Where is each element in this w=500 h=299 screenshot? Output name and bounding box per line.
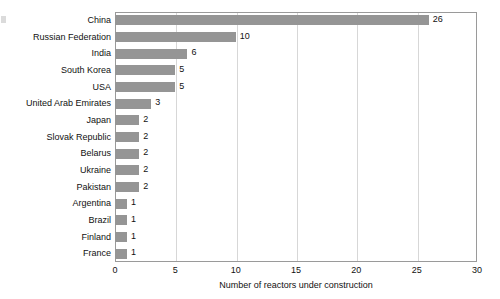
bar-value-label: 2 — [143, 111, 148, 128]
bar-row: 3 — [115, 95, 477, 112]
category-label: Japan — [0, 112, 111, 129]
bar[interactable] — [115, 149, 139, 159]
category-label: Belarus — [0, 145, 111, 162]
bar-row: 1 — [115, 195, 477, 212]
category-label: Pakistan — [0, 179, 111, 196]
x-tick-label: 20 — [351, 265, 361, 275]
bar-value-label: 2 — [143, 178, 148, 195]
bar-row: 1 — [115, 212, 477, 229]
bar[interactable] — [115, 15, 429, 25]
bar-value-label: 3 — [155, 94, 160, 111]
bar[interactable] — [115, 215, 127, 225]
bar-row: 5 — [115, 62, 477, 79]
x-tick-label: 30 — [472, 265, 482, 275]
category-label: Ukraine — [0, 162, 111, 179]
bar-row: 5 — [115, 79, 477, 96]
bar-row: 26 — [115, 12, 477, 29]
category-label: South Korea — [0, 62, 111, 79]
bar-row: 2 — [115, 129, 477, 146]
category-label: United Arab Emirates — [0, 95, 111, 112]
bar-row: 1 — [115, 245, 477, 262]
bar-row: 6 — [115, 45, 477, 62]
bar[interactable] — [115, 199, 127, 209]
category-label: Finland — [0, 229, 111, 246]
category-label: Argentina — [0, 195, 111, 212]
bar[interactable] — [115, 132, 139, 142]
bar[interactable] — [115, 249, 127, 259]
x-tick-label: 0 — [112, 265, 117, 275]
bar-value-label: 1 — [131, 211, 136, 228]
x-tick-label: 15 — [291, 265, 301, 275]
bar[interactable] — [115, 232, 127, 242]
bar-value-label: 5 — [179, 78, 184, 95]
bar-value-label: 10 — [240, 28, 250, 45]
category-label: India — [0, 45, 111, 62]
bar[interactable] — [115, 115, 139, 125]
bar[interactable] — [115, 32, 236, 42]
bar[interactable] — [115, 99, 151, 109]
bar[interactable] — [115, 182, 139, 192]
category-label: USA — [0, 79, 111, 96]
bar-value-label: 1 — [131, 194, 136, 211]
x-tick-label: 25 — [412, 265, 422, 275]
bar[interactable] — [115, 82, 175, 92]
bar[interactable] — [115, 49, 187, 59]
bar-row: 10 — [115, 29, 477, 46]
bar-row: 1 — [115, 229, 477, 246]
category-label: Brazil — [0, 212, 111, 229]
bar-value-label: 2 — [143, 161, 148, 178]
category-label: Russian Federation — [0, 29, 111, 46]
x-tick-label: 10 — [231, 265, 241, 275]
bar-series: 26106553222221111 — [115, 12, 477, 262]
bar[interactable] — [115, 165, 139, 175]
category-label: China — [0, 12, 111, 29]
category-axis-labels: ChinaRussian FederationIndiaSouth KoreaU… — [0, 12, 111, 262]
bar-row: 2 — [115, 145, 477, 162]
bar-chart-figure: ChinaRussian FederationIndiaSouth KoreaU… — [0, 0, 500, 299]
bar-value-label: 2 — [143, 144, 148, 161]
x-tick-label: 5 — [173, 265, 178, 275]
bar-row: 2 — [115, 162, 477, 179]
category-label: Slovak Republic — [0, 129, 111, 146]
bar-value-label: 6 — [191, 44, 196, 61]
bar[interactable] — [115, 65, 175, 75]
bar-value-label: 1 — [131, 228, 136, 245]
x-axis-title: Number of reactors under construction — [115, 280, 477, 290]
bar-value-label: 1 — [131, 244, 136, 261]
bar-row: 2 — [115, 112, 477, 129]
bar-value-label: 2 — [143, 128, 148, 145]
bar-row: 2 — [115, 179, 477, 196]
bar-value-label: 5 — [179, 61, 184, 78]
category-label: France — [0, 245, 111, 262]
bar-value-label: 26 — [433, 11, 443, 28]
